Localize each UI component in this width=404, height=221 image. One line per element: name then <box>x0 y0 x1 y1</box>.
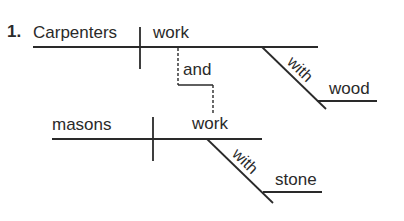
conjunction: and <box>183 61 211 78</box>
clause2-object: stone <box>275 171 317 188</box>
clause1-subject: Carpenters <box>33 24 117 41</box>
clause1-verb: work <box>153 24 189 41</box>
clause2-verb: work <box>192 115 228 132</box>
clause2-subject: masons <box>52 116 112 133</box>
clause1-object: wood <box>329 80 370 97</box>
exercise-number: 1. <box>7 23 21 40</box>
